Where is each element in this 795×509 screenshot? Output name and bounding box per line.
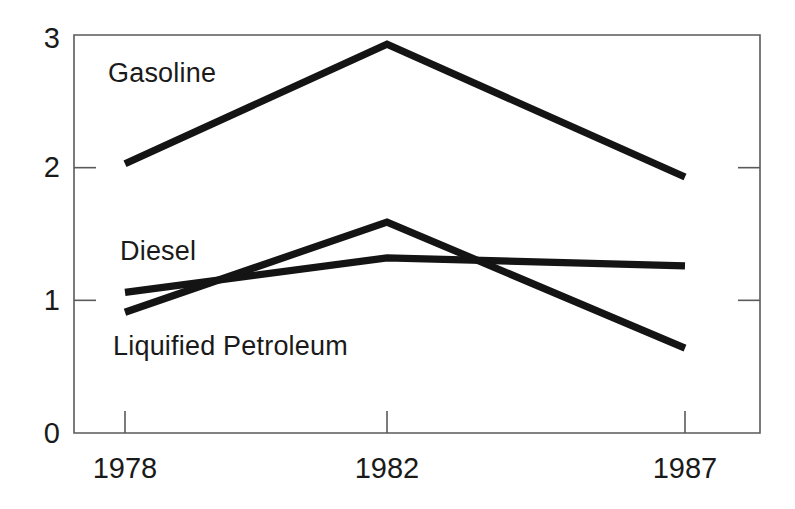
y-tick-label-3: 3	[44, 22, 60, 54]
x-tick-label-1982: 1982	[355, 452, 420, 484]
series-label-diesel: Diesel	[120, 236, 196, 266]
series-label-gasoline: Gasoline	[108, 58, 216, 88]
chart-page: 0 1 2 3 1978 1982 1987 Gasoline Diesel L…	[0, 0, 795, 509]
x-tick-label-1978: 1978	[93, 452, 158, 484]
line-chart: 0 1 2 3 1978 1982 1987 Gasoline Diesel L…	[0, 0, 795, 509]
y-tick-label-1: 1	[44, 284, 60, 316]
y-tick-label-2: 2	[44, 151, 60, 183]
y-tick-label-0: 0	[44, 417, 60, 449]
series-label-liquified-petroleum: Liquified Petroleum	[113, 331, 348, 361]
x-tick-label-1987: 1987	[653, 452, 718, 484]
